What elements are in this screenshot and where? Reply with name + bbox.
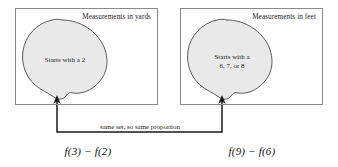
diagram-root: Measurements in yards Measurements in fe… bbox=[0, 0, 338, 167]
blob-label-yards: Starts with a 2 bbox=[22, 55, 108, 64]
connector-caption: same set, so same proportion bbox=[60, 124, 220, 131]
formula-feet: f(9) − f(6) bbox=[192, 145, 312, 157]
group-caption-feet: Measurements in feet bbox=[252, 14, 316, 21]
blob-label-feet: Starts with a 6, 7, or 8 bbox=[192, 52, 272, 70]
group-caption-yards: Measurements in yards bbox=[82, 14, 151, 21]
formula-yards: f(3) − f(2) bbox=[28, 145, 148, 157]
